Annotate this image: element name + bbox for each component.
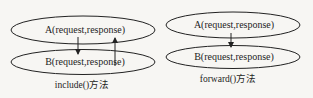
include-node-b-label: B(request,response) xyxy=(45,56,125,67)
forward-node-a-label: A(request,response) xyxy=(194,19,274,30)
diagram-shapes xyxy=(0,0,313,98)
include-node-a-label: A(request,response) xyxy=(45,24,125,35)
include-caption: include()方法 xyxy=(55,80,109,91)
servlet-dispatch-diagram: A(request,response) B(request,response) … xyxy=(0,0,313,98)
forward-node-b-label: B(request,response) xyxy=(194,51,274,62)
forward-caption: forward()方法 xyxy=(200,74,256,85)
